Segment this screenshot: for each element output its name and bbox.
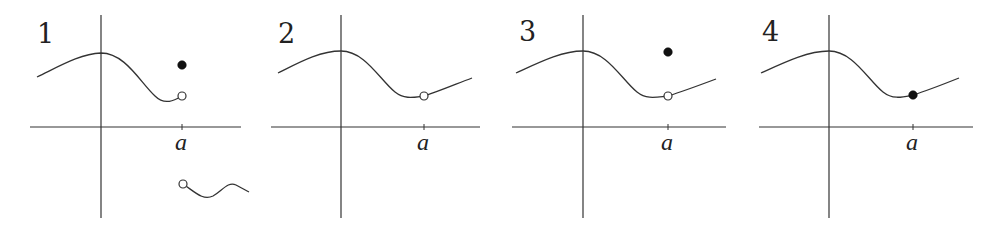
panel-3-number: 3 <box>519 18 536 45</box>
panel-1-a-label: a <box>175 130 187 154</box>
panel-1-lower-branch <box>183 184 249 197</box>
panel-3-open-point <box>664 92 672 100</box>
panel-4-filled-point <box>909 91 918 100</box>
panel-4-a-label: a <box>906 130 918 154</box>
panel-3-filled-point <box>664 48 673 57</box>
panel-1-curve <box>37 53 182 101</box>
panel-1-open-point <box>178 92 186 100</box>
panel-4-curve <box>761 51 959 97</box>
panel-2-curve <box>278 51 472 97</box>
panel-3-a-label: a <box>661 130 673 154</box>
panel-1-number: 1 <box>37 20 54 47</box>
panel-1-open-point <box>179 180 187 188</box>
panel-2-a-label: a <box>417 130 429 154</box>
panel-4-number: 4 <box>762 18 779 45</box>
panel-2-open-point <box>420 92 428 100</box>
panel-2-number: 2 <box>278 20 295 47</box>
function-sketches <box>0 0 998 229</box>
figure: 1 2 3 4 a a a a <box>0 0 998 229</box>
panel-3-curve <box>516 51 716 97</box>
panel-1-filled-point <box>178 61 187 70</box>
